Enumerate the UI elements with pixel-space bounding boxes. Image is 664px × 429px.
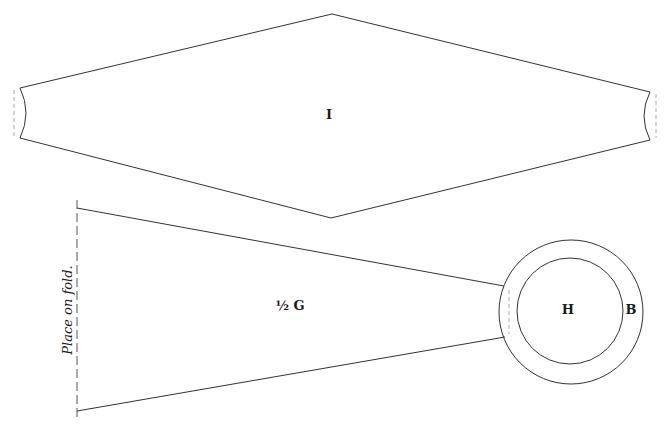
- piece-h: H: [517, 258, 623, 364]
- piece-g-label: ½ G: [275, 298, 304, 313]
- piece-g-top-edge: [77, 208, 504, 286]
- piece-i-label: I: [326, 107, 332, 122]
- sewing-pattern-diagram: I Place on fold. ½ G B H: [0, 0, 664, 429]
- piece-h-label: H: [562, 302, 574, 317]
- fold-instruction: Place on fold.: [60, 265, 75, 355]
- piece-i: I: [14, 14, 656, 218]
- piece-i-outline: [20, 14, 650, 218]
- piece-b-label: B: [626, 302, 637, 317]
- piece-g-bottom-edge: [77, 337, 505, 411]
- piece-g: Place on fold. ½ G: [60, 200, 509, 421]
